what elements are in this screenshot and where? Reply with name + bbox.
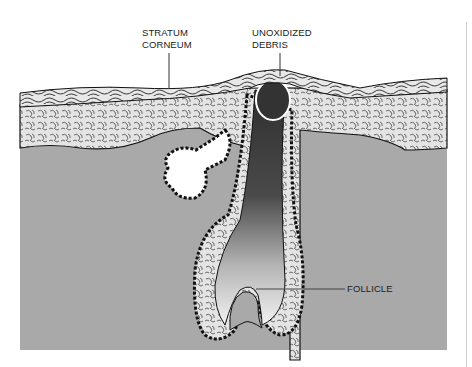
skin-cross-section-diagram bbox=[0, 0, 472, 367]
label-line: CORNEUM bbox=[142, 39, 192, 51]
label-line: DEBRIS bbox=[252, 39, 312, 51]
label-line: STRATUM bbox=[142, 27, 192, 39]
label-line: FOLLICLE bbox=[347, 283, 393, 295]
label-line: UNOXIDIZED bbox=[252, 27, 312, 39]
unoxidized-debris-plug bbox=[256, 80, 290, 120]
label-stratum-corneum: STRATUM CORNEUM bbox=[142, 27, 192, 51]
label-unoxidized-debris: UNOXIDIZED DEBRIS bbox=[252, 27, 312, 51]
label-follicle: FOLLICLE bbox=[347, 283, 393, 295]
